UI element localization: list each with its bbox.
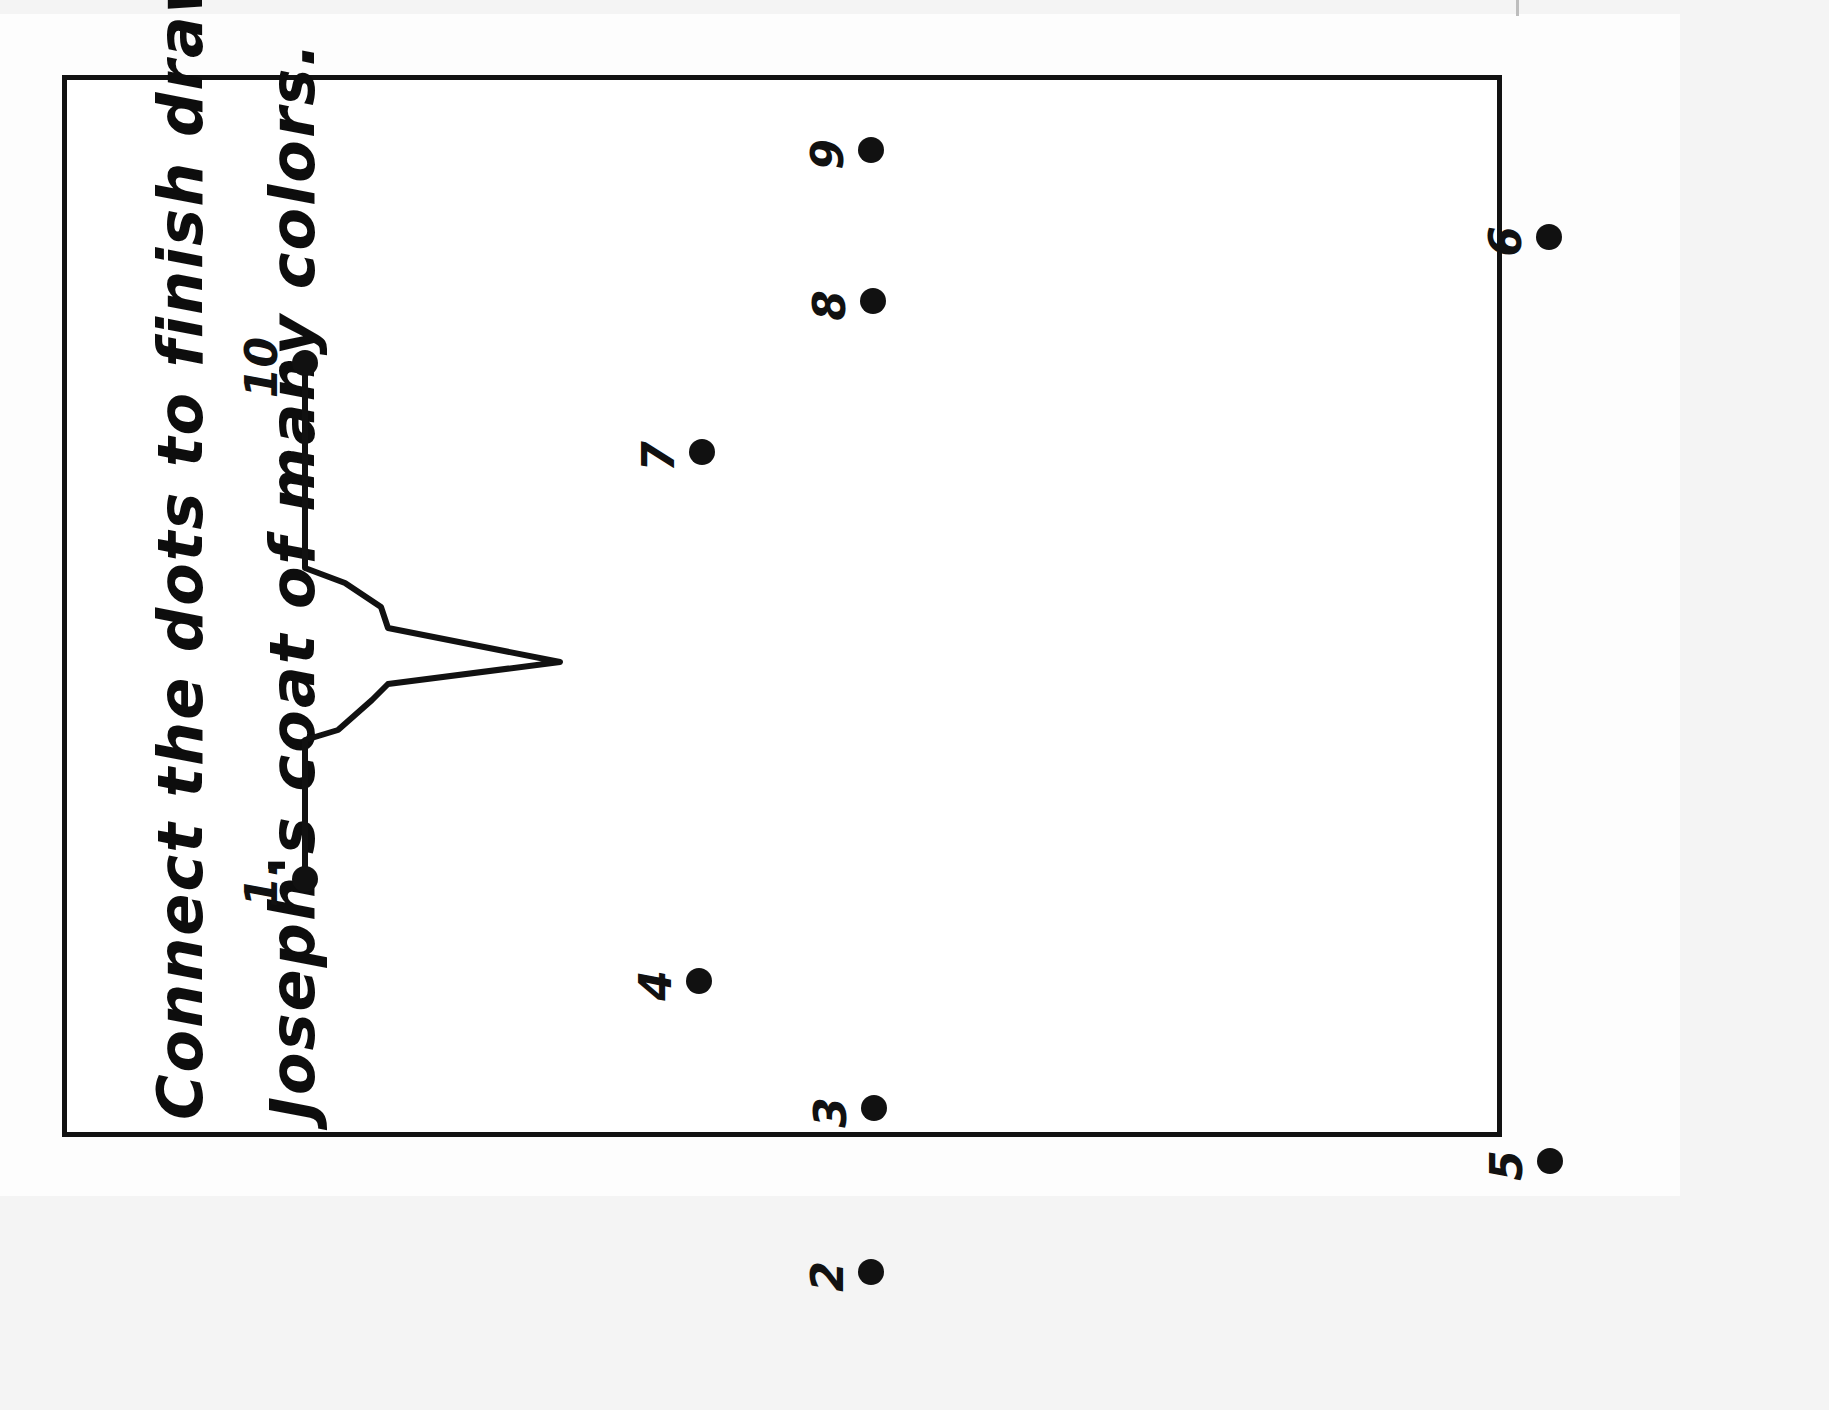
dot-point (858, 137, 884, 163)
dot-point (292, 866, 318, 892)
dot-point (861, 1095, 887, 1121)
dot-number-label: 3 (805, 1082, 856, 1144)
dot-number-label: 8 (804, 275, 855, 337)
dot-number-label: 1. (236, 853, 287, 915)
dot-point (858, 1259, 884, 1285)
dot-point (686, 968, 712, 994)
dot-point (1537, 1148, 1563, 1174)
dots-layer: 1.2345678910 (0, 0, 1829, 1410)
dot-number-label: 5 (1481, 1135, 1532, 1197)
dot-number-label: 10 (236, 337, 287, 399)
dot-point (689, 439, 715, 465)
worksheet-page: Connect the dots to finish drawing Josep… (0, 0, 1829, 1410)
dot-point (292, 350, 318, 376)
dot-point (1536, 224, 1562, 250)
dot-number-label: 6 (1480, 211, 1531, 273)
dot-number-label: 7 (633, 426, 684, 488)
dot-number-label: 9 (802, 124, 853, 186)
dot-point (860, 288, 886, 314)
dot-number-label: 4 (630, 955, 681, 1017)
dot-number-label: 2 (802, 1246, 853, 1308)
